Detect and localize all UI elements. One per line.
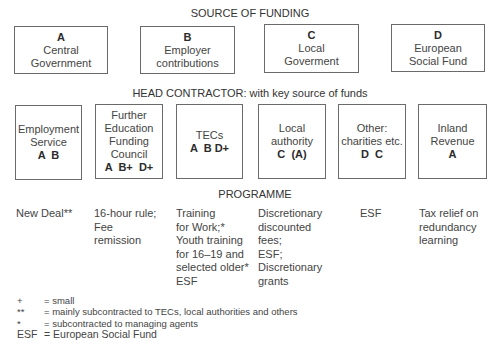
contractor-codes: D C [361,148,383,161]
source-label: Central Government [31,44,92,70]
legend-meaning: = mainly subcontracted to TECs, local au… [44,306,298,317]
contractor-box-fefc: Further Education Funding Council A B+ D… [95,104,163,179]
source-box-employer-contributions: B Employer contributions [140,26,235,74]
source-of-funding-title: SOURCE OF FUNDING [0,7,500,19]
programme-discretionary: Discretionary discounted fees; ESF; Disc… [258,207,322,288]
source-code: D [434,29,442,42]
programme-training-for-work: Training for Work;* Youth training for 1… [176,207,249,288]
source-box-european-social-fund: D European Social Fund [391,24,485,72]
source-label: European Social Fund [409,42,467,68]
legend-row: **= mainly subcontracted to TECs, local … [17,306,298,317]
programme-tax-relief: Tax relief on redundancy learning [419,207,478,248]
contractor-box-tecs: TECs A B D+ [176,104,243,179]
contractor-codes: C (A) [277,148,306,161]
contractor-box-employment-service: Employment Service A B [15,105,82,180]
legend-meaning: = small [44,295,74,306]
contractor-box-local-authority: Local authority C (A) [258,104,326,179]
legend-symbol: ESF [17,329,44,340]
source-label: Employer contributions [156,44,218,70]
contractor-box-other-charities: Other: charities etc. D C [338,104,406,179]
contractor-codes: A B [38,149,60,162]
source-code: B [184,31,192,44]
contractor-codes: A B D+ [190,142,229,155]
contractor-box-inland-revenue: Inland Revenue A [418,104,487,179]
contractor-label: TECs [196,129,224,142]
contractor-label: Other: charities etc. [341,122,403,148]
legend-symbol: + [17,295,44,306]
contractor-codes: A B+ D+ [105,161,154,174]
contractor-label: Inland Revenue [430,122,474,148]
contractor-codes: A [449,148,457,161]
legend-row: ESF= European Social Fund [17,329,157,340]
source-code: A [57,31,65,44]
source-code: C [308,29,316,42]
programme-new-deal: New Deal** [16,207,72,221]
contractor-label: Employment Service [18,123,79,149]
head-contractor-title: HEAD CONTRACTOR: with key source of fund… [0,87,500,99]
programme-16-hour-rule: 16-hour rule; Fee remission [94,207,156,248]
contractor-label: Further Education Funding Council [105,109,154,161]
source-box-central-government: A Central Government [14,26,108,74]
programme-title: PROGRAMME [5,188,500,200]
programme-esf: ESF [360,207,381,221]
source-label: Local Goverment [284,42,338,68]
legend-symbol: ** [17,306,44,317]
source-box-local-government: C Local Goverment [264,24,359,73]
legend-meaning: = European Social Fund [44,328,157,340]
contractor-label: Local authority [271,122,313,148]
legend-row: += small [17,295,74,306]
